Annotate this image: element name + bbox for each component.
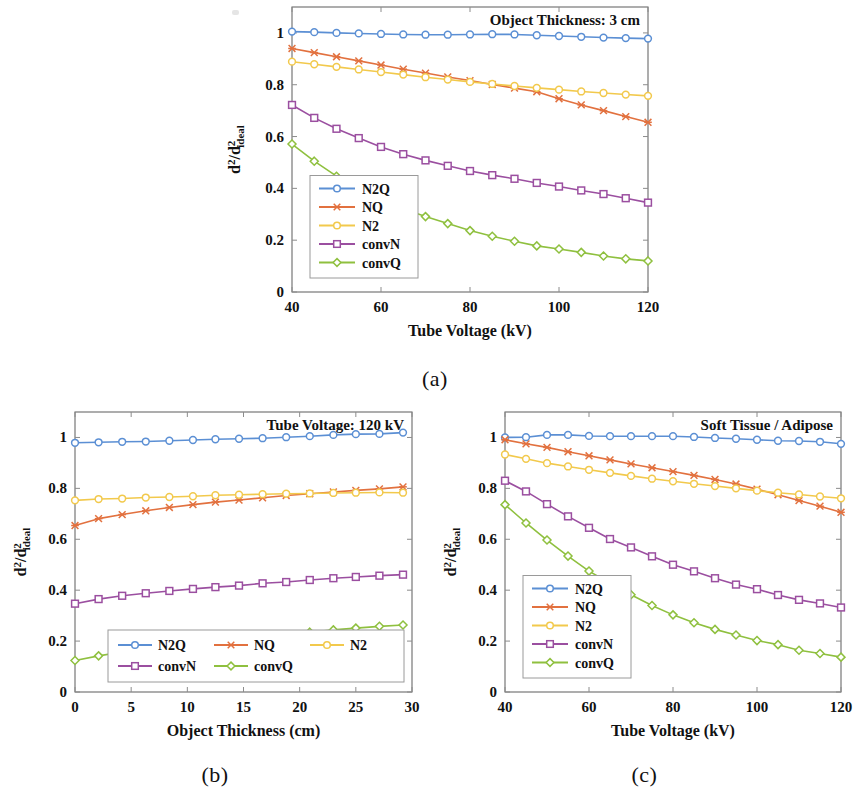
data-point-marker [236, 491, 243, 498]
legend-label-NQ: NQ [254, 638, 275, 653]
legend-label-convN: convN [575, 637, 613, 652]
x-tick-label: 10 [180, 699, 195, 715]
data-point-marker [212, 492, 219, 499]
data-point-marker [511, 83, 518, 90]
x-tick-label: 120 [830, 699, 853, 715]
data-point-marker [691, 568, 698, 575]
data-point-marker [352, 431, 359, 438]
data-point-marker [283, 490, 290, 497]
data-point-marker [212, 584, 219, 591]
data-point-marker [775, 437, 782, 444]
data-point-marker [190, 437, 197, 444]
data-point-marker [72, 439, 79, 446]
data-point-marker [444, 76, 451, 83]
chart-legend[interactable]: N2QNQN2convNconvQ [108, 630, 404, 682]
y-tick-label: 0.4 [265, 180, 284, 196]
data-point-marker [645, 35, 652, 42]
data-point-marker [444, 162, 451, 169]
data-point-marker [838, 604, 845, 611]
data-point-marker [166, 437, 173, 444]
data-point-marker [670, 561, 677, 568]
data-point-marker [289, 102, 296, 109]
chart-panel-a: 40608010012000.20.40.60.81Object Thickne… [200, 0, 670, 400]
x-tick-label: 80 [463, 299, 478, 315]
y-tick-label: 0.6 [478, 531, 497, 547]
data-point-marker [796, 596, 803, 603]
data-point-marker [236, 435, 243, 442]
x-tick-label: 20 [292, 699, 307, 715]
legend-label-convN: convN [362, 237, 400, 252]
data-point-marker [422, 157, 429, 164]
legend-label-convQ: convQ [575, 656, 614, 671]
x-tick-label: 60 [582, 699, 597, 715]
data-point-marker [119, 438, 126, 445]
data-point-marker [754, 586, 761, 593]
data-point-marker [376, 430, 383, 437]
data-point-marker [754, 487, 761, 494]
data-point-marker [607, 469, 614, 476]
data-point-marker [467, 78, 474, 85]
x-tick-label: 40 [285, 299, 300, 315]
data-point-marker [259, 435, 266, 442]
data-point-marker [444, 31, 451, 38]
data-point-marker [333, 63, 340, 70]
data-point-marker [376, 489, 383, 496]
panel-sublabel-a: (a) [200, 366, 670, 392]
data-point-marker [817, 438, 824, 445]
data-point-marker [533, 84, 540, 91]
data-point-marker [166, 494, 173, 501]
y-tick-label: 0.6 [265, 129, 284, 145]
data-point-marker [523, 434, 530, 441]
data-point-marker [670, 478, 677, 485]
data-point-marker [400, 489, 407, 496]
data-point-marker [352, 574, 359, 581]
data-point-marker [283, 579, 290, 586]
data-point-marker [306, 490, 313, 497]
legend-label-NQ: NQ [575, 600, 596, 615]
x-axis-title: Tube Voltage (kV) [408, 322, 532, 340]
data-point-marker [324, 642, 331, 649]
svg-text:d2/d2ideal: d2/d2ideal [11, 528, 32, 577]
data-point-marker [733, 435, 740, 442]
data-point-marker [649, 433, 656, 440]
data-point-marker [691, 434, 698, 441]
chart-svg-b: 05101520253000.20.40.60.81Tube Voltage: … [0, 400, 430, 762]
chart-legend[interactable]: N2QNQN2convNconvQ [310, 176, 418, 279]
y-axis-title: d2/d2ideal [441, 528, 462, 577]
data-point-marker [600, 90, 607, 97]
data-point-marker [622, 91, 629, 98]
y-tick-label: 0 [60, 684, 68, 700]
data-point-marker [691, 480, 698, 487]
legend-label-N2: N2 [362, 219, 379, 234]
data-point-marker [333, 30, 340, 37]
x-tick-label: 100 [548, 299, 571, 315]
data-point-marker [556, 183, 563, 190]
data-point-marker [352, 489, 359, 496]
legend-label-NQ: NQ [362, 200, 383, 215]
data-point-marker [533, 180, 540, 187]
data-point-marker [712, 483, 719, 490]
data-point-marker [796, 491, 803, 498]
legend-label-convN: convN [158, 659, 196, 674]
data-point-marker [489, 31, 496, 38]
data-point-marker [95, 439, 102, 446]
data-point-marker [649, 553, 656, 560]
data-point-marker [72, 497, 79, 504]
data-point-marker [378, 144, 385, 151]
data-point-marker [311, 61, 318, 68]
data-point-marker [489, 81, 496, 88]
svg-text:d2/d2ideal: d2/d2ideal [441, 528, 462, 577]
chart-legend[interactable]: N2QNQN2convNconvQ [523, 576, 631, 679]
data-point-marker [236, 582, 243, 589]
data-point-marker [142, 494, 149, 501]
data-point-marker [400, 31, 407, 38]
data-point-marker [355, 66, 362, 73]
data-point-marker [578, 88, 585, 95]
y-tick-label: 1 [277, 25, 285, 41]
legend-label-N2Q: N2Q [575, 582, 603, 597]
panel-sublabel-b: (b) [0, 762, 430, 788]
data-point-marker [578, 187, 585, 194]
data-point-marker [645, 199, 652, 206]
data-point-marker [259, 491, 266, 498]
data-point-marker [754, 436, 761, 443]
